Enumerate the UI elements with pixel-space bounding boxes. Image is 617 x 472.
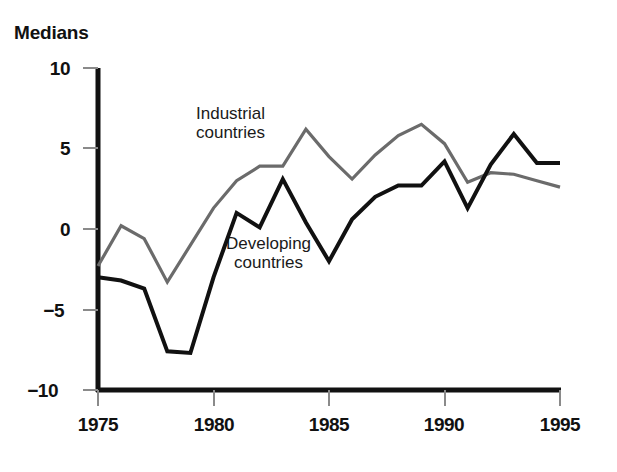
chart-container: Medians 10 5 0 −5 −10 1975 1980 1985 199… [0,0,617,472]
plot-area [0,0,617,472]
series-line-developing [98,134,560,353]
